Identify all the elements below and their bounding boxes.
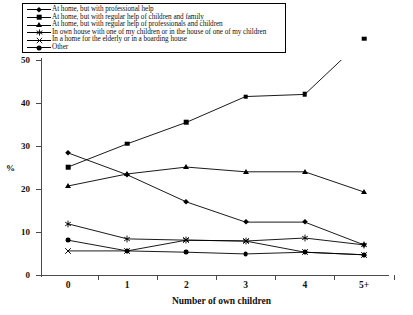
y-tick-label: 10 [10,227,30,237]
square-marker-icon [26,14,52,22]
series-line [68,240,364,255]
circle-marker [184,250,189,255]
star-marker [123,235,131,243]
star-marker [64,220,72,228]
x-axis-title: Number of own children [0,296,413,306]
diamond-marker-icon [26,6,52,14]
legend-item-other: Other [26,44,285,52]
triangle-marker-icon [26,21,52,29]
star-marker-icon [26,29,52,37]
square-marker [66,165,71,170]
x-tick-label: 5+ [349,280,379,290]
series-line [68,224,364,245]
x-marker [182,236,190,244]
triangle-marker [302,169,308,174]
circle-marker [243,252,248,257]
x-tick-label: 4 [290,280,320,290]
y-tick-label: 50 [10,55,30,65]
x-tick [394,275,395,280]
x-marker-icon [26,36,52,44]
x-tick-label: 3 [231,280,261,290]
x-marker [64,247,72,255]
y-tick-label: 30 [10,141,30,151]
x-glyph [36,37,43,44]
square-marker [362,36,367,41]
triangle-marker [124,171,130,176]
circle-marker-icon [26,44,52,52]
circle-marker [302,250,307,255]
plot-area [41,60,387,275]
series-lines [41,60,387,275]
triangle-marker [65,183,71,188]
square-marker [184,120,189,125]
x-tick-label: 2 [171,280,201,290]
y-axis-title: % [6,163,15,173]
star-marker [360,241,368,249]
triangle-marker [361,189,367,194]
square-marker [303,92,308,97]
square-marker [125,142,130,147]
chart-legend: At home, but with professional help At h… [22,3,286,53]
line-chart: At home, but with professional help At h… [0,0,413,315]
circle-marker [125,249,130,254]
x-tick-label: 1 [112,280,142,290]
series-line [68,153,364,245]
series-line [68,167,364,192]
series-line [68,60,364,167]
y-tick-label: 40 [10,98,30,108]
legend-label: Other [52,44,68,52]
y-tick-label: 0 [10,270,30,280]
x-marker [242,237,250,245]
y-tick-label: 20 [10,184,30,194]
circle-marker [66,238,71,243]
legend-label: In a home for the elderly or in a boardi… [52,36,187,44]
triangle-marker [243,169,249,174]
x-tick-label: 0 [53,280,83,290]
circle-marker [362,252,367,257]
star-marker [301,234,309,242]
square-marker [243,94,248,99]
triangle-marker [183,164,189,169]
star-glyph [36,29,43,36]
